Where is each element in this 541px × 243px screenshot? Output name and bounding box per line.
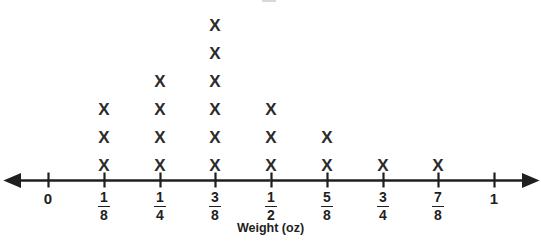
- x-stack-tick-7-8: X: [424, 152, 452, 180]
- x-mark: X: [201, 152, 229, 180]
- x-mark: X: [313, 152, 341, 180]
- label-tick-5-8: 58: [305, 190, 349, 223]
- x-mark: X: [90, 96, 118, 124]
- fraction-numerator: 3: [377, 190, 389, 205]
- x-stack-tick-3-4: X: [369, 152, 397, 180]
- x-mark: X: [201, 12, 229, 40]
- whole-number: 0: [26, 190, 70, 208]
- fraction: 12: [265, 190, 277, 223]
- fraction: 34: [377, 190, 389, 223]
- dot-plot-figure: 0XXX18XXXX14XXXXXX38XXX12XX58X34X781 Wei…: [0, 0, 541, 243]
- x-mark: X: [201, 40, 229, 68]
- x-stack-tick-5-8: XX: [313, 124, 341, 180]
- fraction-numerator: 1: [265, 190, 277, 205]
- label-tick-1: 1: [472, 190, 516, 208]
- x-mark: X: [146, 124, 174, 152]
- whole-number: 1: [472, 190, 516, 208]
- fraction-numerator: 3: [209, 190, 221, 205]
- x-mark: X: [201, 68, 229, 96]
- x-mark: X: [90, 124, 118, 152]
- fraction: 58: [321, 190, 333, 223]
- x-stack-tick-1-8: XXX: [90, 96, 118, 180]
- fraction: 78: [432, 190, 444, 223]
- fraction-numerator: 1: [98, 190, 110, 205]
- x-mark: X: [257, 96, 285, 124]
- plot-area: 0XXX18XXXX14XXXXXX38XXX12XX58X34X781: [0, 0, 541, 243]
- x-mark: X: [313, 124, 341, 152]
- x-stack-tick-3-8: XXXXXX: [201, 12, 229, 180]
- x-mark: X: [424, 152, 452, 180]
- x-stack-tick-1-4: XXXX: [146, 68, 174, 180]
- label-tick-3-4: 34: [361, 190, 405, 223]
- fraction-numerator: 1: [154, 190, 166, 205]
- x-mark: X: [201, 124, 229, 152]
- x-mark: X: [201, 96, 229, 124]
- label-tick-7-8: 78: [416, 190, 460, 223]
- x-mark: X: [90, 152, 118, 180]
- fraction: 38: [209, 190, 221, 223]
- x-mark: X: [369, 152, 397, 180]
- label-tick-3-8: 38: [193, 190, 237, 223]
- label-tick-1-4: 14: [138, 190, 182, 223]
- fraction-numerator: 5: [321, 190, 333, 205]
- x-mark: X: [257, 152, 285, 180]
- fraction: 18: [98, 190, 110, 223]
- x-mark: X: [257, 124, 285, 152]
- label-tick-1-2: 12: [249, 190, 293, 223]
- fraction: 14: [154, 190, 166, 223]
- x-axis-title: Weight (oz): [0, 221, 541, 235]
- x-mark: X: [146, 152, 174, 180]
- label-tick-1-8: 18: [82, 190, 126, 223]
- x-mark: X: [146, 96, 174, 124]
- label-tick-0: 0: [26, 190, 70, 208]
- fraction-numerator: 7: [432, 190, 444, 205]
- x-mark: X: [146, 68, 174, 96]
- x-stack-tick-1-2: XXX: [257, 96, 285, 180]
